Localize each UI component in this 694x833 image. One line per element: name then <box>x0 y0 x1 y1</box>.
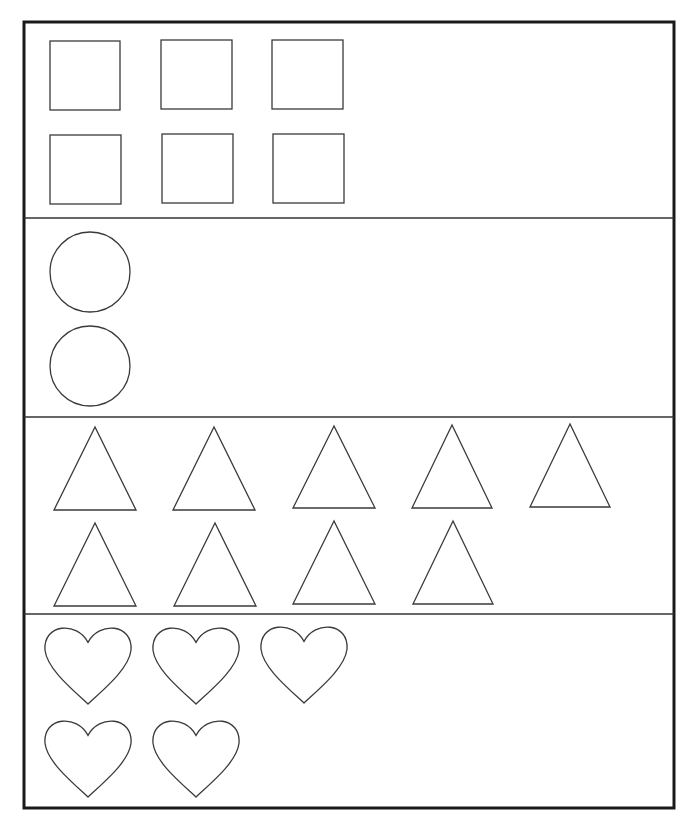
square-icon <box>50 41 120 110</box>
square-icon <box>273 134 344 203</box>
triangle-icon <box>293 521 375 604</box>
triangle-icon <box>530 424 610 507</box>
heart-icon <box>45 721 131 797</box>
section-squares <box>50 40 344 204</box>
circle-icon <box>50 232 130 312</box>
triangle-icon <box>293 426 375 508</box>
heart-icon <box>261 627 347 703</box>
triangle-icon <box>173 427 255 510</box>
square-icon <box>50 135 121 204</box>
square-icon <box>161 40 232 109</box>
section-hearts <box>45 627 347 797</box>
square-icon <box>162 134 233 203</box>
triangle-icon <box>412 425 492 508</box>
heart-icon <box>153 628 239 704</box>
triangle-icon <box>54 427 136 510</box>
circle-icon <box>50 326 130 406</box>
section-circles <box>50 232 130 406</box>
heart-icon <box>153 721 239 797</box>
triangle-icon <box>413 521 493 604</box>
shape-counting-worksheet <box>0 0 694 833</box>
triangle-icon <box>54 523 136 606</box>
section-triangles <box>54 424 610 606</box>
triangle-icon <box>174 523 256 606</box>
square-icon <box>272 40 343 109</box>
heart-icon <box>45 628 131 704</box>
